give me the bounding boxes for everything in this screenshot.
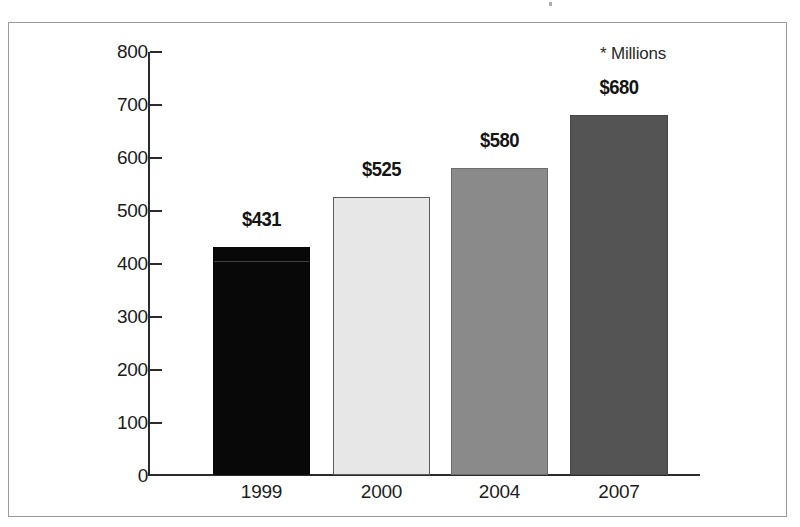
units-annotation: * Millions: [600, 44, 666, 64]
x-category-label-2007: 2007: [570, 482, 668, 501]
bar-value-1999: $431: [219, 208, 304, 229]
y-tick-label-400: 400: [86, 254, 148, 273]
y-tick-600: [150, 157, 162, 159]
bar-2000[interactable]: [333, 197, 430, 475]
bar-chart-plot: 800 700 600 500 400 300 200 100: [0, 0, 800, 527]
x-category-label-2000: 2000: [333, 482, 430, 501]
y-tick-300: [150, 316, 162, 318]
bar-value-2000: $525: [339, 158, 424, 179]
chart-figure: 800 700 600 500 400 300 200 100: [0, 0, 800, 527]
y-tick-label-200: 200: [86, 360, 148, 379]
y-tick-label-700: 700: [86, 95, 148, 114]
y-tick-200: [150, 369, 162, 371]
bar-value-2004: $580: [457, 129, 542, 150]
bar-2007[interactable]: [570, 115, 668, 475]
x-category-label-1999: 1999: [213, 482, 310, 501]
y-tick-700: [150, 104, 162, 106]
y-tick-100: [150, 422, 162, 424]
y-tick-label-500: 500: [86, 201, 148, 220]
x-category-label-2004: 2004: [451, 482, 548, 501]
y-tick-800: [150, 51, 162, 53]
bar-value-2007: $680: [576, 76, 662, 97]
y-tick-label-300: 300: [86, 307, 148, 326]
y-tick-500: [150, 210, 162, 212]
bar-1999[interactable]: [213, 247, 310, 475]
y-tick-label-800: 800: [86, 42, 148, 61]
y-tick-label-0: 0: [86, 466, 148, 485]
bar-2004[interactable]: [451, 168, 548, 475]
y-tick-400: [150, 263, 162, 265]
y-tick-label-600: 600: [86, 148, 148, 167]
y-tick-label-100: 100: [86, 413, 148, 432]
